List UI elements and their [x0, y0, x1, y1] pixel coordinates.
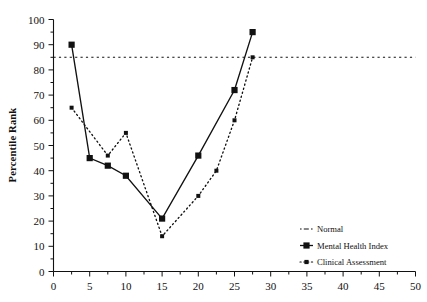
x-axis-tick-label: 30 [265, 280, 277, 292]
y-axis-tick-label: 20 [34, 215, 46, 227]
data-point-marker [159, 215, 165, 221]
legend-marker-clinical-assessment [304, 260, 308, 264]
legend-marker-mental-health-index [303, 242, 309, 248]
data-point-marker [160, 234, 164, 238]
x-axis-tick-label: 0 [51, 280, 57, 292]
y-axis-title: Percentile Rank [7, 108, 18, 183]
data-point-marker [251, 55, 255, 59]
x-axis-tick-label: 35 [301, 280, 313, 292]
x-axis-tick-label: 50 [410, 280, 422, 292]
y-axis-tick-label: 70 [34, 89, 46, 101]
x-axis-tick-label: 25 [229, 280, 241, 292]
y-axis-tick-label: 80 [34, 64, 46, 76]
y-axis-tick-label: 90 [34, 39, 46, 51]
chart-container: 0102030405060708090100 05101520253035404… [0, 0, 427, 302]
legend-label: Normal [317, 224, 344, 234]
legend-label: Clinical Assessment [317, 257, 387, 267]
data-point-marker [106, 154, 110, 158]
y-axis-tick-label: 40 [34, 165, 46, 177]
data-point-marker [231, 87, 237, 93]
percentile-rank-line-chart: 0102030405060708090100 05101520253035404… [0, 0, 427, 302]
data-point-marker [214, 169, 218, 173]
y-axis-tick-label: 10 [34, 240, 46, 252]
x-axis-tick-label: 40 [338, 280, 350, 292]
x-axis-tick-label: 45 [374, 280, 386, 292]
data-point-marker [195, 152, 201, 158]
data-point-marker [196, 194, 200, 198]
x-axis-tick-label: 15 [157, 280, 169, 292]
x-axis-tick-label: 10 [120, 280, 132, 292]
data-point-marker [233, 118, 237, 122]
x-axis-tick-label: 20 [193, 280, 205, 292]
y-axis-tick-label: 100 [28, 14, 45, 26]
y-axis-tick-label: 60 [34, 114, 46, 126]
data-point-marker [70, 106, 74, 110]
y-axis-tick-label: 50 [34, 140, 46, 152]
data-point-marker [123, 173, 129, 179]
legend-label: Mental Health Index [317, 241, 389, 251]
data-point-marker [87, 155, 93, 161]
y-axis-tick-label: 0 [39, 266, 45, 278]
data-point-marker [124, 131, 128, 135]
data-point-marker [105, 163, 111, 169]
data-point-marker [250, 29, 256, 35]
data-point-marker [69, 42, 75, 48]
y-axis-tick-label: 30 [34, 190, 46, 202]
x-axis-tick-label: 5 [87, 280, 93, 292]
